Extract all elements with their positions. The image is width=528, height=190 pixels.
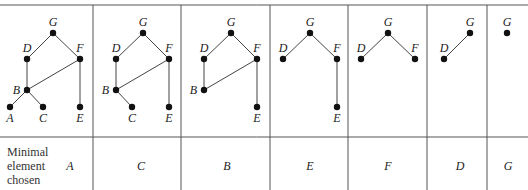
node-G — [385, 30, 391, 36]
node-label-A: A — [5, 111, 14, 125]
node-label-G: G — [227, 15, 236, 29]
node-B — [24, 87, 30, 93]
node-F — [412, 56, 418, 62]
node-label-D: D — [22, 41, 32, 55]
node-E — [77, 104, 83, 110]
node-E — [334, 104, 340, 110]
node-G — [467, 30, 473, 36]
node-label-C: C — [128, 111, 137, 125]
edge-F-B — [116, 59, 169, 90]
edge-B-C — [116, 90, 132, 107]
node-label-G: G — [306, 15, 315, 29]
chosen-element-7: G — [504, 159, 513, 173]
node-D — [113, 56, 119, 62]
node-label-G: G — [139, 15, 148, 29]
node-label-D: D — [439, 41, 449, 55]
panel-3: GDFBE — [190, 15, 262, 125]
chosen-element-6: D — [455, 159, 465, 173]
node-G — [307, 30, 313, 36]
node-C — [40, 104, 46, 110]
panel-2: GDFBCE — [102, 15, 174, 125]
edge-F-B — [27, 59, 80, 90]
chosen-element-3: B — [223, 159, 231, 173]
node-label-E: E — [332, 111, 341, 125]
node-label-F: F — [252, 41, 261, 55]
node-D — [24, 56, 30, 62]
node-G — [228, 30, 234, 36]
row-label-line-2: element — [7, 159, 46, 173]
panel-4: GDFE — [278, 15, 342, 125]
node-label-G: G — [503, 15, 512, 29]
chosen-element-1: A — [65, 159, 74, 173]
panel-1: GDFBACE — [5, 15, 84, 125]
chosen-element-4: E — [305, 159, 314, 173]
hasse-diagrams: GDFBACEGDFBCEGDFBEGDFEGDFGDG — [5, 15, 511, 125]
row-label-line-3: chosen — [7, 173, 40, 187]
panel-5: GDF — [356, 15, 420, 62]
minimal-element-row: Minimal element chosen ACBEFDG — [7, 145, 513, 187]
node-D — [441, 56, 447, 62]
node-D — [358, 56, 364, 62]
node-B — [201, 87, 207, 93]
node-label-E: E — [75, 111, 84, 125]
node-label-B: B — [102, 83, 110, 97]
node-label-C: C — [39, 111, 48, 125]
minimal-element-diagram: GDFBACEGDFBCEGDFBEGDFEGDFGDG Minimal ele… — [0, 0, 528, 190]
node-label-E: E — [252, 111, 261, 125]
node-E — [166, 104, 172, 110]
node-F — [334, 56, 340, 62]
node-label-B: B — [190, 83, 198, 97]
node-label-D: D — [111, 41, 121, 55]
node-G — [504, 30, 510, 36]
node-label-D: D — [278, 41, 288, 55]
node-label-G: G — [49, 15, 58, 29]
node-label-G: G — [384, 15, 393, 29]
node-label-F: F — [332, 41, 341, 55]
node-F — [166, 56, 172, 62]
node-F — [254, 56, 260, 62]
node-B — [113, 87, 119, 93]
node-label-F: F — [410, 41, 419, 55]
node-label-D: D — [356, 41, 366, 55]
node-A — [7, 104, 13, 110]
node-F — [77, 56, 83, 62]
table-grid — [0, 5, 528, 190]
panel-6: GD — [439, 15, 475, 62]
edge-B-C — [27, 90, 43, 107]
node-label-E: E — [164, 111, 173, 125]
node-G — [50, 30, 56, 36]
row-label-line-1: Minimal — [7, 145, 49, 159]
node-label-D: D — [199, 41, 209, 55]
node-D — [201, 56, 207, 62]
chosen-element-5: F — [383, 159, 392, 173]
node-label-B: B — [13, 83, 21, 97]
node-label-G: G — [466, 15, 475, 29]
node-label-F: F — [75, 41, 84, 55]
node-C — [129, 104, 135, 110]
edge-F-B — [204, 59, 257, 90]
node-G — [140, 30, 146, 36]
node-D — [280, 56, 286, 62]
panel-7: G — [503, 15, 512, 36]
node-E — [254, 104, 260, 110]
chosen-element-2: C — [137, 159, 146, 173]
node-label-F: F — [164, 41, 173, 55]
